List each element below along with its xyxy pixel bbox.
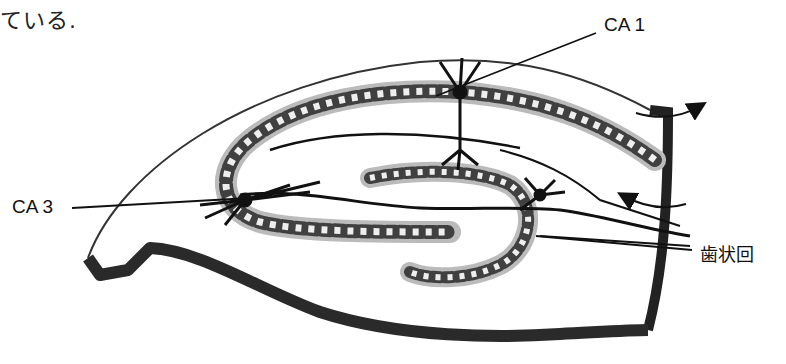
ca3-label: CA 3 bbox=[12, 196, 53, 218]
curved-arrow-inward-icon bbox=[624, 196, 686, 207]
ca1-neuron bbox=[440, 58, 480, 170]
ca1-label: CA 1 bbox=[604, 14, 645, 36]
hippocampus-diagram bbox=[0, 0, 786, 364]
ca-cell-layer bbox=[226, 91, 655, 232]
dentate-gyrus-label: 歯状回 bbox=[700, 240, 754, 266]
